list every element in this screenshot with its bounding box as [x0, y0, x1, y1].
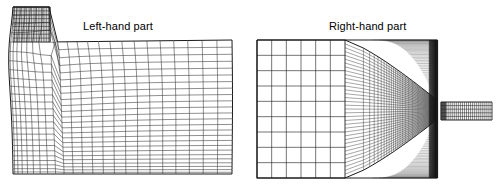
left-hand-part-mesh: [9, 7, 233, 174]
right-hand-part-mesh: [257, 40, 492, 178]
mesh-canvas: [0, 0, 501, 192]
right-hand-part-label: Right-hand part: [329, 20, 406, 32]
mesh-figure: Left-hand part Right-hand part: [0, 0, 501, 192]
left-hand-part-label: Left-hand part: [83, 20, 153, 32]
